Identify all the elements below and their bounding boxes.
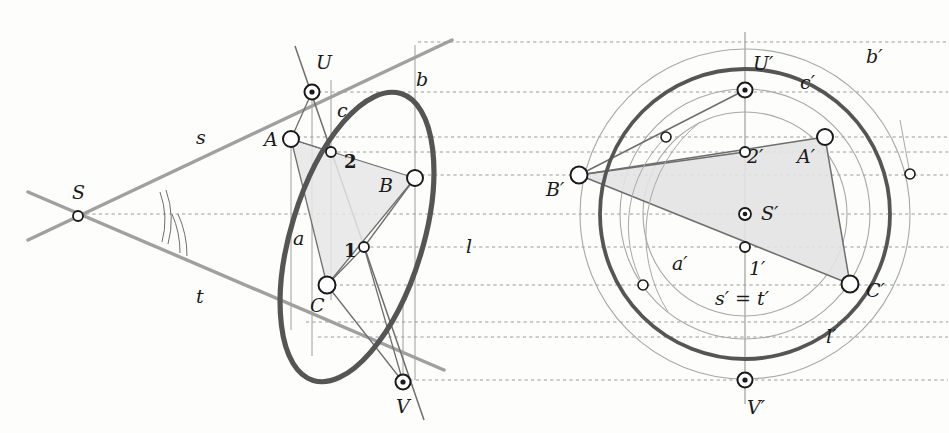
point-marker-A[interactable] <box>283 131 299 147</box>
point-marker-aux-right[interactable] <box>905 169 915 179</box>
label-U: U <box>316 51 333 73</box>
point-marker-U-inner <box>309 89 314 94</box>
point-marker-aux-upper[interactable] <box>661 132 671 142</box>
point-marker-C[interactable] <box>319 277 336 294</box>
angle-arc-group <box>160 190 187 256</box>
label-1: 1 <box>344 240 357 261</box>
point-marker-V-prime-inner <box>742 377 747 382</box>
label-c: c <box>337 99 348 121</box>
label-U-prime: U′ <box>753 52 774 74</box>
label-V: V <box>396 395 412 417</box>
label-group-left: S s t U A B C V b c a l 1 2 <box>72 51 472 417</box>
label-b: b <box>416 68 428 90</box>
label-2-prime: 2′ <box>746 145 764 167</box>
label-A: A <box>262 128 278 150</box>
point-marker-1-prime[interactable] <box>740 242 750 252</box>
point-marker-A-prime[interactable] <box>817 129 833 145</box>
point-marker-B[interactable] <box>407 170 423 186</box>
label-s-equals-t-prime: s′ = t′ <box>715 287 770 309</box>
label-a-prime: a′ <box>672 252 688 274</box>
angle-arc <box>166 190 171 244</box>
label-V-prime: V′ <box>747 396 766 418</box>
angle-arc <box>160 192 165 242</box>
label-B: B <box>378 174 393 196</box>
point-marker-2[interactable] <box>326 147 336 157</box>
label-S: S <box>72 181 85 203</box>
aux-right-connector <box>900 120 910 174</box>
label-C: C <box>310 294 325 316</box>
point-marker-aux-lower[interactable] <box>638 280 648 290</box>
point-marker-C-prime[interactable] <box>842 276 859 293</box>
point-marker-1[interactable] <box>359 242 369 252</box>
chord-c-to-v <box>327 285 403 382</box>
label-l-prime: l′ <box>826 325 837 347</box>
label-a: a <box>293 227 304 249</box>
label-s: s <box>196 126 206 148</box>
point-marker-V-inner <box>400 379 405 384</box>
figure-canvas: S s t U A B C V b c a l 1 2 U′ b′ c′ A′ … <box>0 0 949 433</box>
point-marker-S[interactable] <box>73 211 83 221</box>
label-t: t <box>196 285 204 307</box>
angle-arc <box>178 214 187 256</box>
point-marker-B-prime[interactable] <box>571 167 588 184</box>
label-A-prime: A′ <box>795 145 816 167</box>
geometry-figure: S s t U A B C V b c a l 1 2 U′ b′ c′ A′ … <box>0 0 949 433</box>
point-marker-S-prime-inner <box>743 212 748 217</box>
point-marker-U-prime-inner <box>742 87 747 92</box>
label-b-prime: b′ <box>866 45 883 67</box>
label-1-prime: 1′ <box>749 257 766 279</box>
label-l: l <box>466 235 472 257</box>
label-S-prime: S′ <box>761 202 779 224</box>
label-2: 2 <box>344 151 357 172</box>
angle-arc <box>172 214 180 253</box>
radial-helper-arc <box>628 137 666 285</box>
label-B-prime: B′ <box>545 178 565 200</box>
label-c-prime: c′ <box>800 71 816 93</box>
label-C-prime: C′ <box>866 279 886 301</box>
